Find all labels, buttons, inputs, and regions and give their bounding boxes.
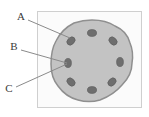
granule-5 — [87, 87, 96, 94]
label-b-text: B — [10, 40, 17, 52]
label-c-text: C — [5, 82, 12, 94]
diagram-container: ABC — [0, 0, 149, 117]
label-a-text: A — [17, 10, 25, 22]
granule-3 — [117, 57, 124, 66]
granule-1 — [87, 30, 96, 37]
diagram-svg: ABC — [0, 0, 149, 117]
label-letters-group: ABC — [5, 10, 25, 94]
